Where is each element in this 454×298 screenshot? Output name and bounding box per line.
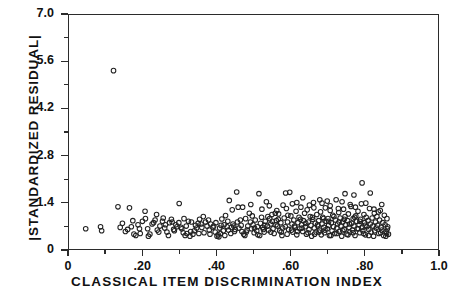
y-axis-tick-minor: [64, 37, 69, 38]
x-axis-tick-minor: [327, 250, 328, 254]
x-axis-tick-major: [216, 250, 217, 256]
data-point: [243, 216, 248, 221]
y-axis-tick-minor: [64, 131, 69, 132]
y-axis-tick-major: [61, 61, 68, 62]
y-axis-tick-major: [61, 108, 68, 109]
data-point: [359, 202, 364, 207]
data-point: [285, 232, 290, 237]
data-point: [154, 212, 159, 217]
data-point: [248, 202, 253, 207]
data-point: [137, 226, 142, 231]
x-axis-tick-minor: [401, 250, 402, 254]
data-points-layer: [69, 15, 440, 251]
data-point: [379, 202, 384, 207]
y-axis-tick-major: [61, 13, 68, 14]
x-axis-tick-major: [364, 250, 365, 256]
x-axis-tick-label: .40: [196, 259, 236, 273]
y-axis-title: |STANDARDIZED RESIDUAL|: [26, 13, 41, 263]
data-point: [140, 219, 145, 224]
data-point: [370, 216, 375, 221]
data-point: [267, 204, 272, 209]
data-point: [300, 195, 305, 200]
data-point: [299, 205, 304, 210]
data-point: [364, 201, 369, 206]
y-axis-tick-minor: [64, 84, 69, 85]
x-axis-tick-label: 1.0: [419, 259, 454, 273]
data-point: [234, 190, 239, 195]
data-point: [346, 212, 351, 217]
data-point: [223, 233, 228, 238]
data-point: [343, 191, 348, 196]
data-point: [312, 206, 317, 211]
data-point: [328, 204, 333, 209]
x-axis-tick-label: .80: [345, 259, 385, 273]
data-point: [341, 207, 346, 212]
x-axis-tick-major: [142, 250, 143, 256]
data-point: [371, 234, 376, 239]
y-axis-tick-label: 1.4: [20, 195, 54, 209]
y-axis-tick-minor: [64, 226, 69, 227]
data-point: [325, 199, 330, 204]
data-point: [202, 230, 207, 235]
data-point: [145, 226, 150, 231]
data-point: [83, 226, 88, 231]
data-point: [353, 205, 358, 210]
data-point: [260, 207, 265, 212]
data-point: [158, 224, 163, 229]
data-point: [250, 214, 255, 219]
data-point: [320, 201, 325, 206]
y-axis-tick-major: [61, 202, 68, 203]
y-axis-tick-label: 5.6: [20, 53, 54, 67]
data-point: [318, 210, 323, 215]
x-axis-tick-major: [438, 250, 439, 256]
x-axis-title: CLASSICAL ITEM DISCRIMINATION INDEX: [0, 274, 454, 289]
data-point: [214, 220, 219, 225]
data-point: [177, 201, 182, 206]
data-point: [323, 206, 328, 211]
data-point: [294, 200, 299, 205]
data-point: [284, 206, 289, 211]
data-point: [221, 228, 226, 233]
x-axis-tick-minor: [104, 250, 105, 254]
data-point: [131, 218, 136, 223]
data-point: [340, 199, 345, 204]
y-axis-tick-label: 7.0: [20, 6, 54, 20]
x-axis-tick-label: .60: [271, 259, 311, 273]
data-point: [120, 221, 125, 226]
data-point: [368, 191, 373, 196]
x-axis-tick-major: [67, 250, 68, 256]
plot-area: [68, 14, 439, 250]
data-point: [240, 205, 245, 210]
data-point: [182, 216, 187, 221]
x-axis-tick-major: [290, 250, 291, 256]
data-point: [307, 203, 312, 208]
data-point: [184, 224, 189, 229]
data-point: [138, 231, 143, 236]
x-axis-tick-minor: [179, 250, 180, 254]
data-point: [197, 231, 202, 236]
y-axis-tick-major: [61, 155, 68, 156]
data-point: [189, 220, 194, 225]
data-point: [367, 206, 372, 211]
data-point: [223, 213, 228, 218]
data-point: [116, 205, 121, 210]
data-point: [143, 209, 148, 214]
y-axis-tick-label: 4.2: [20, 100, 54, 114]
data-point: [236, 205, 241, 210]
data-point: [339, 234, 344, 239]
x-axis-tick-minor: [253, 250, 254, 254]
data-point: [259, 215, 264, 220]
x-axis-tick-label: 0: [48, 259, 88, 273]
data-point: [328, 208, 333, 213]
data-point: [360, 181, 365, 186]
y-axis-tick-label: 2.8: [20, 148, 54, 162]
data-point: [285, 220, 290, 225]
y-axis-tick-minor: [64, 179, 69, 180]
scatter-plot-figure: |STANDARDIZED RESIDUAL| 01.42.84.25.67.0…: [0, 0, 454, 298]
data-point: [111, 68, 116, 73]
data-point: [227, 198, 232, 203]
data-point: [385, 216, 390, 221]
data-point: [257, 191, 262, 196]
data-point: [286, 213, 291, 218]
data-point: [305, 208, 310, 213]
